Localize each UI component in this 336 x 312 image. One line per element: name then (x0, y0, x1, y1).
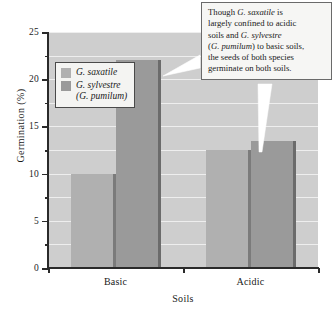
callout-text-line: germinate on both soils. (208, 63, 326, 74)
x-axis-tick (183, 268, 185, 273)
x-axis-tick (318, 268, 320, 273)
bar (206, 150, 251, 268)
y-axis-tick (42, 32, 48, 34)
y-axis-tick-label: 15 (29, 121, 39, 131)
bar (71, 174, 116, 268)
y-axis-minor-tick (45, 103, 49, 105)
legend: G. saxatile G. sylvestre (G. pumilum) (55, 62, 135, 108)
legend-item-label: G. saxatile (76, 67, 117, 78)
bar-fill (71, 174, 116, 268)
callout-text-line: (G. pumilum) to basic soils, (208, 41, 326, 52)
bar-shadow-edge (158, 60, 161, 268)
y-axis-tick-label: 0 (34, 263, 39, 273)
gridline (48, 126, 318, 127)
callout-text-line: the seeds of both species (208, 52, 326, 63)
bar (251, 141, 296, 268)
bar-fill (206, 150, 251, 268)
y-axis-title: Germination (%) (15, 56, 26, 196)
x-axis-tick (48, 268, 50, 273)
callout-text-line: soils and G. sylvestre (208, 30, 326, 41)
y-axis-tick-label: 20 (29, 74, 39, 84)
x-axis-tick-label: Acidic (211, 276, 291, 287)
y-axis-minor-tick (45, 150, 49, 152)
y-axis-minor-tick (45, 244, 49, 246)
callout-text-line: largely confined to acidic (208, 18, 326, 29)
bar-shadow-edge (293, 141, 296, 268)
y-axis-tick-label: 10 (29, 169, 39, 179)
callout-text: Though G. saxatile islargely confined to… (208, 7, 326, 75)
callout-text-line: Though G. saxatile is (208, 7, 326, 18)
legend-swatch-icon (61, 68, 71, 78)
callout-box: Though G. saxatile islargely confined to… (201, 2, 332, 80)
x-axis-title: Soils (48, 293, 318, 304)
y-axis-tick-label: 25 (29, 27, 39, 37)
y-axis-minor-tick (45, 56, 49, 58)
y-axis-tick-label: 5 (34, 216, 39, 226)
germination-bar-chart-figure: 0510152025 Germination (%) BasicAcidic S… (0, 0, 336, 312)
y-axis-tick (42, 79, 48, 81)
y-axis-minor-tick (45, 197, 49, 199)
y-axis-tick (42, 221, 48, 223)
bar-fill (251, 141, 296, 268)
x-axis-tick-label: Basic (76, 276, 156, 287)
y-axis-tick (42, 126, 48, 128)
y-axis-tick (42, 174, 48, 176)
legend-item-label: G. sylvestre (G. pumilum) (76, 80, 127, 102)
legend-item-g-saxatile: G. saxatile (61, 67, 127, 78)
legend-item-g-sylvestre: G. sylvestre (G. pumilum) (61, 80, 127, 102)
legend-swatch-icon (61, 81, 71, 91)
